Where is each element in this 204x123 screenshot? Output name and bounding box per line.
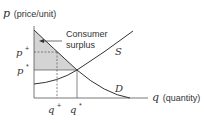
q-plus-symbol: q — [48, 104, 54, 115]
y-axis-symbol: p — [3, 7, 10, 20]
p-star-symbol: p — [17, 65, 24, 76]
demand-label: D — [114, 83, 123, 94]
q-plus-sup: + — [57, 102, 61, 109]
p-plus-symbol: p — [16, 47, 23, 58]
p-plus-sup: + — [25, 45, 29, 52]
y-axis-label: (price/unit) — [14, 9, 57, 19]
supply-label: S — [115, 46, 122, 57]
q-star-sup: * — [79, 102, 82, 109]
svg-text:p *: p * — [17, 63, 29, 76]
svg-text:q *: q * — [70, 102, 82, 115]
x-axis-symbol: q — [152, 91, 159, 104]
svg-text:q (quantity): q (quantity) — [152, 91, 200, 104]
svg-text:p (price/unit): p (price/unit) — [3, 7, 56, 20]
annotation-line2: surplus — [66, 40, 96, 50]
p-star-sup: * — [26, 63, 29, 70]
supply-demand-diagram: p (price/unit) q (quantity) Consumer sur… — [0, 0, 204, 123]
svg-text:q +: q + — [48, 102, 61, 115]
q-star-symbol: q — [70, 104, 76, 115]
svg-text:p +: p + — [16, 45, 29, 58]
annotation-line1: Consumer — [66, 29, 108, 39]
x-axis-label: (quantity) — [163, 93, 201, 103]
